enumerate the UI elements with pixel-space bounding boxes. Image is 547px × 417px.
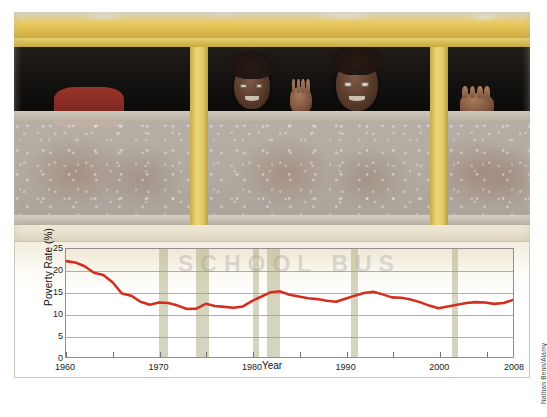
eye-left [344,82,352,87]
hair [231,52,273,79]
finger [484,86,490,98]
eye-right [256,84,263,88]
window-upper-rail [208,111,430,121]
mouth [245,96,259,101]
hair [333,47,382,75]
school-bus-photograph [14,12,530,242]
bus-window-band [14,47,530,225]
eye-right [361,82,369,87]
child-face-right [336,57,378,111]
mouth [349,96,366,101]
window-lower-rail [208,215,430,225]
eye-left [240,84,247,88]
child-hand [290,87,312,113]
window-glass [448,121,530,215]
bus-window-center [208,47,430,225]
finger [306,79,310,93]
finger [301,79,305,93]
bus-roof-paint-chips [14,12,530,34]
series-polyline [66,261,513,309]
bus-roof-lip [14,38,530,47]
finger [470,86,476,98]
y-axis-tick-label: 10 [37,310,63,319]
poverty-rate-chart: Poverty Rate (%) 0510152025 SCHOOL BUS 1… [14,241,530,378]
window-upper-rail [14,111,190,121]
finger [462,86,468,98]
y-axis-tick-label: 15 [37,288,63,297]
window-lower-rail [14,215,190,225]
window-glass [208,121,430,215]
finger [297,79,301,93]
photo-credit-text: Nathan Benn/Alamy [540,343,547,404]
photo-credit: Nathan Benn/Alamy [531,300,543,410]
plot-area: SCHOOL BUS [65,248,514,358]
finger [477,86,483,98]
x-axis-title: Year [15,360,529,371]
window-glass [14,121,190,215]
window-lower-rail [448,215,530,225]
bus-window-right [448,47,530,225]
y-axis-title-container: Poverty Rate (%) [19,260,33,346]
y-axis-tick-label: 5 [37,332,63,341]
photo-canvas [14,12,530,242]
y-axis-tick-label: 25 [37,244,63,253]
poverty-rate-line-series [66,249,513,357]
bus-window-pillar [430,47,448,225]
bus-window-pillar [190,47,208,225]
child-face-left [234,63,270,109]
window-upper-rail [448,111,530,121]
bus-window-left [14,47,190,225]
bus-body-lower-panel [14,225,530,242]
y-axis-tick-label: 20 [37,266,63,275]
